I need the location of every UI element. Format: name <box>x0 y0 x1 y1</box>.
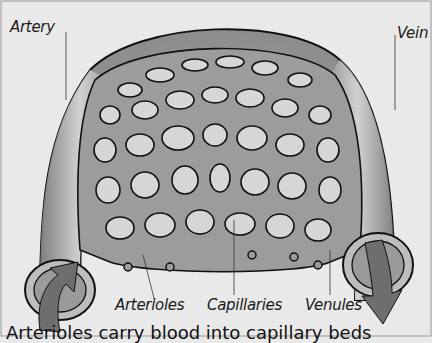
label-vein: Vein <box>397 24 428 42</box>
caption-partial: Arterioles carry blood into capillary be… <box>6 322 371 343</box>
capillary-network <box>78 49 362 272</box>
label-capillaries: Capillaries <box>207 296 282 314</box>
label-artery: Artery <box>10 18 55 36</box>
label-arterioles: Arterioles <box>115 296 184 314</box>
label-venules: Venules <box>305 296 362 314</box>
